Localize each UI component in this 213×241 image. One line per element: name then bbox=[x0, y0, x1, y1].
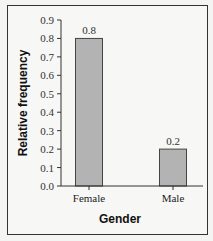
x-axis-title: Gender bbox=[99, 212, 141, 226]
y-axis: 0.00.10.20.30.40.50.60.70.80.9 bbox=[40, 14, 61, 192]
y-tick-label: 0.9 bbox=[40, 14, 54, 26]
bar-male bbox=[160, 149, 187, 186]
y-tick-label: 0.2 bbox=[40, 143, 54, 155]
bar-value-label: 0.8 bbox=[82, 24, 96, 36]
y-tick-label: 0.0 bbox=[40, 180, 54, 192]
x-category-label: Female bbox=[73, 192, 105, 204]
y-tick-label: 0.1 bbox=[40, 162, 54, 174]
y-tick-label: 0.6 bbox=[40, 69, 54, 81]
bar-value-label: 0.2 bbox=[166, 135, 180, 147]
bar-female bbox=[76, 38, 103, 186]
y-tick-label: 0.8 bbox=[40, 32, 54, 44]
x-category-label: Male bbox=[162, 192, 185, 204]
y-tick-label: 0.7 bbox=[40, 51, 54, 63]
y-tick-label: 0.5 bbox=[40, 88, 54, 100]
y-axis-title: Relative frequency bbox=[16, 49, 30, 156]
bar-chart: 0.00.10.20.30.40.50.60.70.80.9 0.80.2 Fe… bbox=[0, 0, 213, 241]
x-axis: FemaleMale bbox=[61, 186, 203, 204]
y-tick-label: 0.3 bbox=[40, 125, 54, 137]
bars: 0.80.2 bbox=[76, 24, 187, 186]
y-tick-label: 0.4 bbox=[40, 106, 54, 118]
